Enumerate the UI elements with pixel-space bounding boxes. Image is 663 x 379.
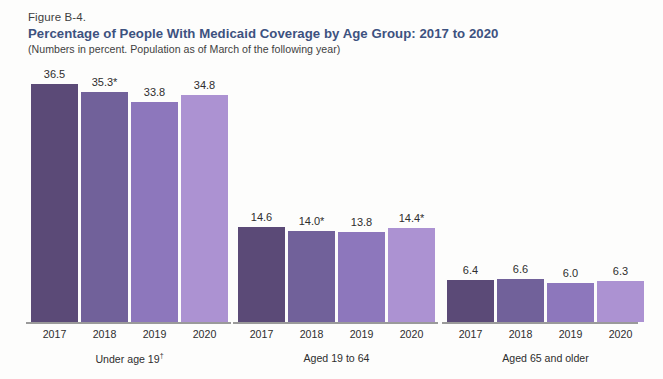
bar-value-label: 6.6 — [497, 263, 544, 275]
x-axis-tick-label: 2020 — [181, 328, 228, 340]
group-label: Aged 65 and older — [447, 352, 644, 364]
bar — [597, 281, 644, 322]
footnote-marker: † — [160, 352, 164, 359]
x-axis-tick-label: 2019 — [131, 328, 178, 340]
x-axis-tick-label: 2019 — [338, 328, 385, 340]
bar — [181, 95, 228, 322]
bar — [31, 84, 78, 322]
bar — [447, 280, 494, 322]
bar-chart-plot-area: 36.5201735.3*201833.8201934.82020Under a… — [0, 0, 663, 379]
bar-value-label: 14.0* — [288, 215, 335, 227]
x-axis-tick-label: 2020 — [597, 328, 644, 340]
bar — [497, 279, 544, 322]
x-axis-tick-label: 2017 — [447, 328, 494, 340]
bar — [388, 228, 435, 322]
axis-baseline — [26, 322, 231, 324]
bar-value-label: 14.4* — [388, 212, 435, 224]
bar-value-label: 14.6 — [238, 211, 285, 223]
group-label: Under age 19† — [31, 352, 228, 365]
bar-value-label: 33.8 — [131, 86, 178, 98]
bar — [238, 227, 285, 322]
bar-value-label: 6.3 — [597, 265, 644, 277]
bar — [547, 283, 594, 322]
x-axis-tick-label: 2020 — [388, 328, 435, 340]
x-axis-tick-label: 2017 — [31, 328, 78, 340]
figure-container: Figure B-4. Percentage of People With Me… — [0, 0, 663, 379]
group-label: Aged 19 to 64 — [238, 352, 435, 364]
bar-value-label: 36.5 — [31, 68, 78, 80]
x-axis-tick-label: 2018 — [288, 328, 335, 340]
axis-baseline — [442, 322, 638, 324]
bar-value-label: 6.0 — [547, 267, 594, 279]
x-axis-tick-label: 2017 — [238, 328, 285, 340]
bar-value-label: 13.8 — [338, 216, 385, 228]
bar-value-label: 34.8 — [181, 79, 228, 91]
x-axis-tick-label: 2018 — [497, 328, 544, 340]
x-axis-tick-label: 2018 — [81, 328, 128, 340]
bar — [288, 231, 335, 322]
bar-value-label: 6.4 — [447, 264, 494, 276]
x-axis-tick-label: 2019 — [547, 328, 594, 340]
bar-value-label: 35.3* — [81, 76, 128, 88]
bar — [81, 92, 128, 322]
bar — [338, 232, 385, 322]
bar — [131, 102, 178, 322]
axis-baseline — [233, 322, 438, 324]
